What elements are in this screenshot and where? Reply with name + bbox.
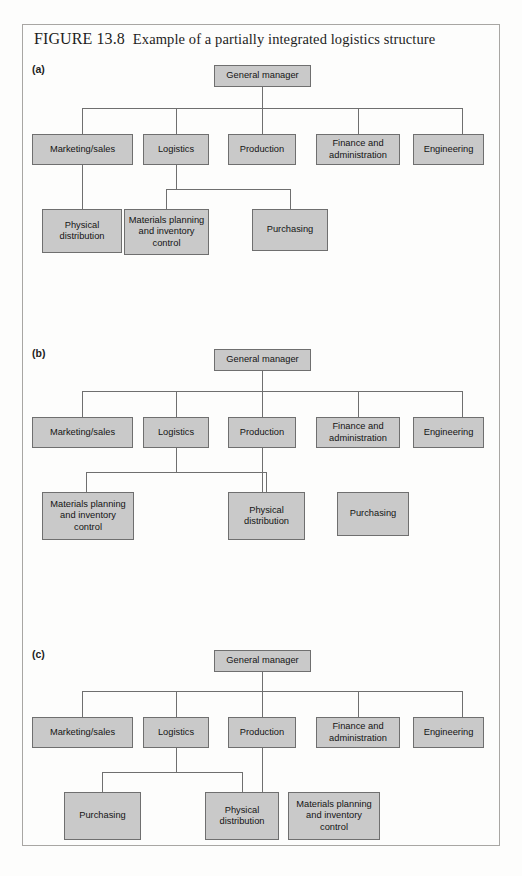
node-materials-planning-c[interactable]: Materials planning and inventory control	[288, 792, 380, 840]
connector-drop-c-2	[176, 691, 177, 717]
connector-drop-c-4	[358, 691, 359, 717]
node-production-a[interactable]: Production	[228, 134, 296, 165]
connector-bus-a	[82, 108, 462, 109]
connector-root-drop-a	[262, 87, 263, 109]
connector-b-logistics-child-1	[86, 472, 87, 492]
figure-caption: Example of a partially integrated logist…	[133, 31, 435, 47]
connector-a-logistics-child-1	[166, 189, 167, 209]
connector-drop-a-1	[82, 108, 83, 134]
connector-a-logistics-bus	[166, 189, 290, 190]
node-materials-planning-a[interactable]: Materials planning and inventory control	[124, 209, 209, 255]
node-general-manager-a[interactable]: General manager	[214, 65, 311, 87]
figure-title: FIGURE 13.8 Example of a partially integ…	[34, 30, 484, 48]
connector-c-logistics-child-2	[242, 772, 243, 792]
connector-b-logistics-bus	[86, 472, 266, 473]
node-materials-planning-b[interactable]: Materials planning and inventory control	[42, 492, 134, 540]
connector-drop-b-2	[176, 391, 177, 417]
node-general-manager-c[interactable]: General manager	[214, 650, 311, 672]
panel-label-a: (a)	[32, 63, 45, 75]
node-logistics-a[interactable]: Logistics	[143, 134, 209, 165]
node-production-b[interactable]: Production	[228, 417, 296, 448]
connector-b-logistics-child-2	[266, 472, 267, 492]
connector-drop-b-5	[462, 391, 463, 417]
node-engineering-b[interactable]: Engineering	[413, 417, 484, 448]
connector-a-logistics-child-2	[290, 189, 291, 209]
figure-page: FIGURE 13.8 Example of a partially integ…	[0, 0, 522, 876]
node-engineering-a[interactable]: Engineering	[413, 134, 484, 165]
connector-drop-a-5	[462, 108, 463, 134]
node-finance-a[interactable]: Finance and administration	[316, 134, 400, 165]
node-production-c[interactable]: Production	[228, 717, 296, 748]
connector-root-drop-b	[262, 371, 263, 392]
node-marketing-sales-a[interactable]: Marketing/sales	[32, 134, 133, 165]
connector-drop-c-1	[82, 691, 83, 717]
node-finance-b[interactable]: Finance and administration	[316, 417, 400, 448]
connector-root-drop-c	[262, 672, 263, 692]
panel-label-c: (c)	[32, 648, 45, 660]
connector-drop-c-3	[262, 691, 263, 717]
connector-a-marketing-child	[82, 165, 83, 209]
connector-c-logistics-bus	[102, 772, 242, 773]
node-marketing-sales-b[interactable]: Marketing/sales	[32, 417, 133, 448]
node-logistics-b[interactable]: Logistics	[143, 417, 209, 448]
node-general-manager-b[interactable]: General manager	[214, 349, 311, 371]
figure-number: FIGURE 13.8	[34, 30, 125, 47]
connector-b-logistics-drop	[176, 448, 177, 472]
connector-drop-a-3	[262, 108, 263, 134]
node-finance-c[interactable]: Finance and administration	[316, 717, 400, 748]
connector-drop-b-4	[358, 391, 359, 417]
connector-b-production-child	[262, 448, 263, 492]
node-physical-distribution-b[interactable]: Physical distribution	[228, 492, 305, 540]
connector-drop-c-5	[462, 691, 463, 717]
node-purchasing-c[interactable]: Purchasing	[64, 792, 141, 840]
node-engineering-c[interactable]: Engineering	[413, 717, 484, 748]
connector-bus-b	[82, 391, 462, 392]
node-physical-distribution-a[interactable]: Physical distribution	[42, 209, 122, 253]
connector-drop-b-1	[82, 391, 83, 417]
connector-c-logistics-drop	[176, 748, 177, 772]
node-logistics-c[interactable]: Logistics	[143, 717, 209, 748]
connector-c-production-child	[262, 748, 263, 792]
connector-drop-b-3	[262, 391, 263, 417]
node-marketing-sales-c[interactable]: Marketing/sales	[32, 717, 133, 748]
node-purchasing-b[interactable]: Purchasing	[337, 492, 409, 536]
node-physical-distribution-c[interactable]: Physical distribution	[205, 792, 279, 840]
connector-c-logistics-child-1	[102, 772, 103, 792]
node-purchasing-a[interactable]: Purchasing	[252, 209, 328, 251]
connector-a-logistics-drop	[176, 165, 177, 189]
connector-drop-a-2	[176, 108, 177, 134]
connector-drop-a-4	[358, 108, 359, 134]
panel-label-b: (b)	[32, 347, 45, 359]
connector-bus-c	[82, 691, 462, 692]
